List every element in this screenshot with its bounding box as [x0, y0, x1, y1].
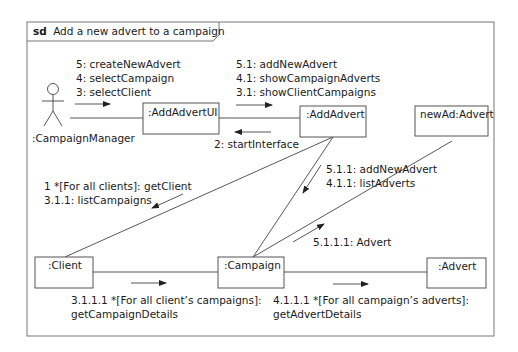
msg-ui-to-addadvert: 5.1: addNewAdvert 4.1: showCampaignAdver…: [236, 58, 380, 98]
message-label: 3.1.1: listCampaigns: [44, 194, 152, 206]
stick-figure-icon: [42, 84, 64, 127]
object-newad-advert[interactable]: newAd:Advert: [415, 106, 494, 136]
message-label: getCampaignDetails: [71, 308, 178, 320]
object-campaign[interactable]: :Campaign: [218, 257, 284, 288]
message-label: getAdvertDetails: [273, 308, 361, 320]
message-label-start-interface: 2: startInterface: [214, 138, 299, 150]
message-label: 4.1.1.1 *[For all campaign’s adverts]:: [273, 294, 469, 306]
object-label: :Campaign: [224, 259, 281, 271]
actor-label: :CampaignManager: [32, 132, 136, 144]
object-client[interactable]: :Client: [35, 257, 93, 288]
object-label: newAd:Advert: [420, 108, 494, 120]
frame-title: sd Add a new advert to a campaign: [33, 25, 225, 37]
frame-title-text: Add a new advert to a campaign: [53, 25, 224, 37]
msg-addadvert-to-client: 1 *[For all clients]: getClient 3.1.1: l…: [44, 180, 192, 206]
object-label: :AddAdvert: [306, 108, 365, 120]
object-label: :Advert: [438, 260, 476, 272]
object-label: :Client: [48, 259, 82, 271]
object-label: :AddAdvertUI: [148, 106, 217, 118]
message-label: 4: selectCampaign: [76, 72, 174, 84]
frame-keyword: sd: [33, 25, 47, 37]
message-label: 1 *[For all clients]: getClient: [44, 180, 192, 192]
message-label: 3.1: showClientCampaigns: [236, 86, 376, 98]
message-label: 3.1.1.1 *[For all client’s campaigns]:: [71, 294, 262, 306]
object-advert[interactable]: :Advert: [427, 258, 486, 288]
msg-campaign-to-advert: 4.1.1.1 *[For all campaign’s adverts]: g…: [273, 294, 469, 320]
msg-addadvert-to-campaign: 5.1.1: addNewAdvert 4.1.1: listAdverts: [326, 163, 437, 189]
msg-client-to-campaign: 3.1.1.1 *[For all client’s campaigns]: g…: [71, 294, 262, 320]
object-addadvertui[interactable]: :AddAdvertUI: [143, 103, 219, 134]
msg-actor-to-ui: 5: createNewAdvert 4: selectCampaign 3: …: [76, 58, 181, 98]
message-label: 4.1.1: listAdverts: [326, 177, 415, 189]
message-label: 3: selectClient: [76, 86, 151, 98]
message-label-advert: 5.1.1.1: Advert: [313, 236, 391, 248]
message-label: 5.1: addNewAdvert: [236, 58, 337, 70]
communication-diagram: sd Add a new advert to a campaign :Campa…: [0, 0, 518, 352]
message-label: 5.1.1: addNewAdvert: [326, 163, 437, 175]
message-label: 4.1: showCampaignAdverts: [236, 72, 380, 84]
message-label: 5: createNewAdvert: [76, 58, 181, 70]
object-addadvert[interactable]: :AddAdvert: [300, 106, 366, 137]
